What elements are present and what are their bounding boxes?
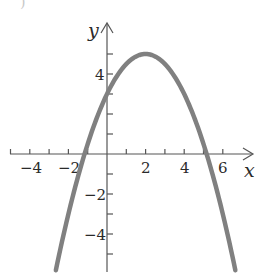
x-tick-label: 2 bbox=[141, 159, 151, 177]
y-axis-label: y bbox=[87, 19, 99, 41]
x-axis bbox=[10, 148, 253, 160]
y-tick-label: 4 bbox=[95, 66, 105, 84]
parabola-chart: −4 −2 2 4 6 4 −2 −4 x y bbox=[0, 0, 270, 276]
y-tick-label: −4 bbox=[84, 226, 106, 244]
y-tick-label: −2 bbox=[84, 186, 106, 204]
x-tick-label: −4 bbox=[20, 159, 42, 177]
x-axis-label: x bbox=[244, 159, 255, 181]
x-tick-label: 4 bbox=[180, 159, 190, 177]
x-tick-label: 6 bbox=[218, 159, 228, 177]
x-ticks bbox=[11, 149, 223, 154]
